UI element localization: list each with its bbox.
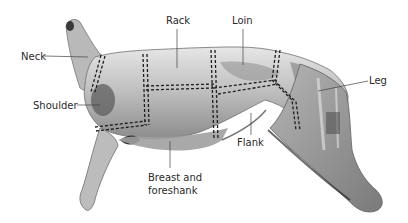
label-flank: Flank [237,136,264,149]
carcass-illustration [66,19,382,212]
shoulder-shading [91,84,115,116]
label-neck: Neck [21,50,46,63]
label-rack: Rack [166,14,190,27]
label-loin: Loin [232,14,253,27]
foreshank-region [80,128,118,210]
label-leg: Leg [369,74,387,87]
label-breast-and-foreshank: Breast and foreshank [148,171,202,197]
label-shoulder: Shoulder [33,99,78,112]
